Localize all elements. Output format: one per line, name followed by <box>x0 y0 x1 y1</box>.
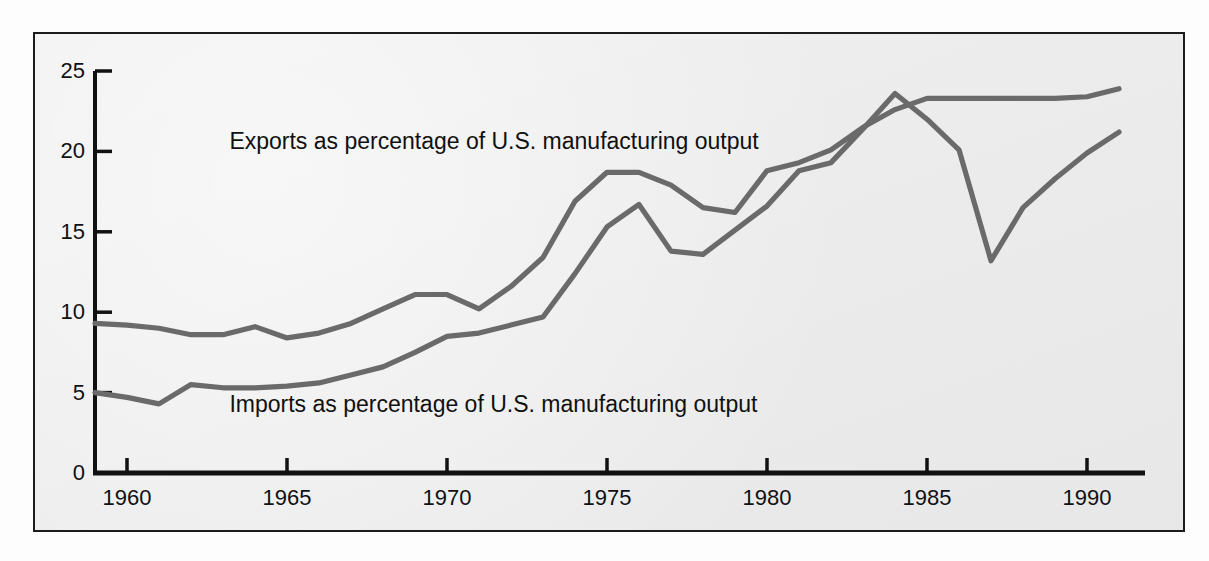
y-tick-label-20: 20 <box>35 140 85 162</box>
y-tick-label-25: 25 <box>35 60 85 82</box>
series-annotation-exports: Exports as percentage of U.S. manufactur… <box>229 130 758 153</box>
y-tick-label-0: 0 <box>35 462 85 484</box>
x-tick-label-1965: 1965 <box>247 487 327 509</box>
x-tick-label-1970: 1970 <box>407 487 487 509</box>
x-tick-label-1960: 1960 <box>87 487 167 509</box>
line-chart-plot <box>33 32 1185 532</box>
y-tick-label-5: 5 <box>35 382 85 404</box>
x-tick-label-1990: 1990 <box>1047 487 1127 509</box>
x-tick-label-1985: 1985 <box>887 487 967 509</box>
y-tick-label-10: 10 <box>35 301 85 323</box>
x-tick-label-1980: 1980 <box>727 487 807 509</box>
chart-figure: 05101520251960196519701975198019851990 E… <box>0 0 1209 561</box>
y-tick-label-15: 15 <box>35 221 85 243</box>
series-line-imports <box>95 89 1119 338</box>
series-annotation-imports: Imports as percentage of U.S. manufactur… <box>229 393 757 416</box>
x-tick-label-1975: 1975 <box>567 487 647 509</box>
